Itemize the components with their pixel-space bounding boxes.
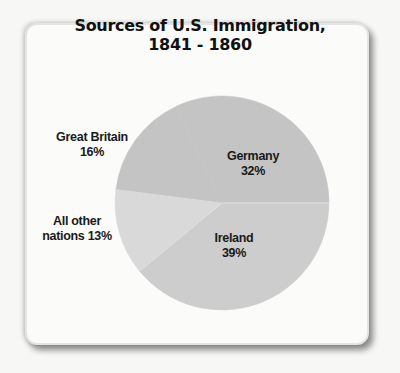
label-germany-value: 32%	[227, 164, 279, 179]
label-germany: Germany 32%	[227, 149, 279, 179]
label-ireland-name: Ireland	[215, 231, 254, 246]
pie-chart	[0, 0, 400, 373]
label-all-other-name: All other	[42, 214, 112, 229]
label-germany-name: Germany	[227, 149, 279, 164]
label-all-other-nations: All other nations 13%	[42, 214, 112, 244]
label-great-britain: Great Britain 16%	[56, 130, 128, 160]
label-ireland-value: 39%	[215, 246, 254, 261]
label-all-other-value: nations 13%	[42, 229, 112, 244]
label-ireland: Ireland 39%	[215, 231, 254, 261]
label-great-britain-value: 16%	[56, 145, 128, 160]
label-great-britain-name: Great Britain	[56, 130, 128, 145]
